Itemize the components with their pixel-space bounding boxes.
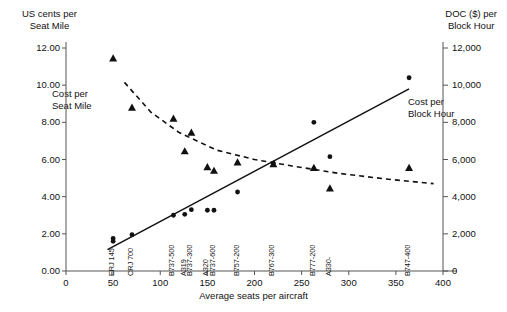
x-tick-label: 50 <box>93 277 133 288</box>
right-y-tick-label: 12,000 <box>452 42 481 53</box>
left-y-tick-label: 12.00 <box>8 42 60 53</box>
aircraft-label: B767-300 <box>267 245 276 276</box>
chart-container: US cents per Seat Mile DOC ($) per Block… <box>0 0 507 312</box>
data-point-triangle <box>128 103 136 110</box>
right-y-tick-label: 2,000 <box>452 228 476 239</box>
data-point-circle <box>407 75 412 80</box>
data-point-circle <box>328 154 333 159</box>
x-tick-label: 350 <box>376 277 416 288</box>
x-tick-label: 0 <box>46 277 86 288</box>
data-point-triangle <box>169 115 177 122</box>
x-tick-label: 250 <box>282 277 322 288</box>
left-y-tick-label: 10.00 <box>8 79 60 90</box>
data-point-triangle <box>187 129 195 136</box>
x-tick-label: 100 <box>140 277 180 288</box>
left-y-tick-label: 6.00 <box>8 154 60 165</box>
right-y-tick-label: 4,000 <box>452 191 476 202</box>
left-y-tick-label: 0.00 <box>8 265 60 276</box>
x-tick-label: 400 <box>423 277 463 288</box>
plot-area <box>0 0 507 312</box>
block-hour-trendline <box>107 89 409 250</box>
aircraft-label: B757-200 <box>232 245 241 276</box>
data-point-triangle <box>310 164 318 171</box>
aircraft-label: B737-500 <box>167 245 176 276</box>
aircraft-label: B747-400 <box>403 245 412 276</box>
data-point-circle <box>171 213 176 218</box>
data-point-circle <box>311 120 316 125</box>
right-y-tick-label: 6,000 <box>452 154 476 165</box>
aircraft-label: ERJ 145 <box>107 248 116 276</box>
data-point-circle <box>271 161 276 166</box>
x-tick-label: 200 <box>235 277 275 288</box>
data-point-triangle <box>405 164 413 171</box>
aircraft-label: B737-300 <box>185 245 194 276</box>
data-point-circle <box>182 212 187 217</box>
data-point-triangle <box>203 163 211 170</box>
data-point-circle <box>111 239 116 244</box>
data-point-circle <box>205 208 210 213</box>
aircraft-label: B777-200 <box>308 245 317 276</box>
data-point-circle <box>130 232 135 237</box>
x-tick-label: 150 <box>187 277 227 288</box>
data-point-triangle <box>234 158 242 165</box>
data-point-triangle <box>181 147 189 154</box>
left-y-tick-label: 8.00 <box>8 116 60 127</box>
left-y-tick-label: 4.00 <box>8 191 60 202</box>
data-point-triangle <box>326 184 334 191</box>
data-point-circle <box>235 190 240 195</box>
aircraft-label: A330- <box>324 257 333 276</box>
x-tick-label: 300 <box>329 277 369 288</box>
data-point-triangle <box>109 54 117 61</box>
right-y-tick-label: 8,000 <box>452 116 476 127</box>
right-y-tick-label: 0 <box>452 265 457 276</box>
aircraft-label: CRJ 700 <box>126 248 135 276</box>
data-point-circle <box>189 207 194 212</box>
seat-mile-trendline <box>124 82 433 183</box>
data-point-triangle <box>210 167 218 174</box>
data-point-circle <box>212 208 217 213</box>
left-y-tick-label: 2.00 <box>8 228 60 239</box>
aircraft-label: B737-600 <box>208 245 217 276</box>
right-y-tick-label: 10,000 <box>452 79 481 90</box>
